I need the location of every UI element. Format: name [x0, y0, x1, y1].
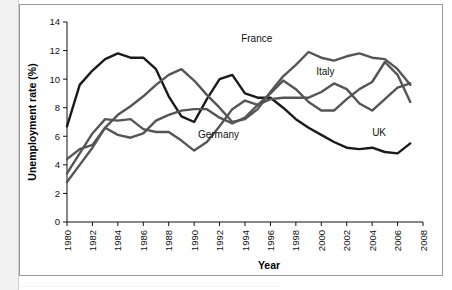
x-tick-marks — [67, 222, 423, 226]
x-tick-labels: 1980198219841986198819901992199419961998… — [62, 230, 429, 251]
y-tick-label: 0 — [55, 216, 60, 227]
x-tick-label: 2004 — [367, 230, 378, 251]
y-tick-label: 10 — [49, 74, 60, 85]
x-tick-label: 2000 — [316, 230, 327, 251]
y-tick-marks — [63, 22, 67, 222]
y-tick-label: 2 — [55, 188, 60, 199]
x-tick-label: 1982 — [87, 230, 98, 251]
series-label-italy: Italy — [316, 66, 334, 77]
caption-fragment-text: …………………………………………………………………………………… — [19, 280, 443, 290]
page-background: 02468101214 1980198219841986198819901992… — [0, 0, 452, 290]
series-label-france: France — [241, 33, 273, 44]
series-paths-group — [67, 52, 410, 182]
y-tick-label: 6 — [55, 131, 60, 142]
x-axis-title: Year — [258, 259, 280, 271]
y-tick-label: 12 — [49, 45, 60, 56]
y-tick-labels: 02468101214 — [49, 16, 60, 227]
x-tick-label: 1994 — [240, 230, 251, 251]
x-tick-label: 1990 — [189, 230, 200, 251]
x-tick-label: 1980 — [62, 230, 73, 251]
page-gutter-strip — [0, 0, 19, 290]
x-tick-label: 1986 — [138, 230, 149, 251]
y-tick-label: 8 — [55, 102, 60, 113]
unemployment-rate-line-chart: 02468101214 1980198219841986198819901992… — [19, 4, 443, 276]
x-tick-label: 2002 — [341, 230, 352, 251]
series-line-france — [67, 52, 410, 182]
y-axis-title: Unemployment rate (%) — [26, 63, 38, 180]
x-tick-label: 1996 — [265, 230, 276, 251]
series-label-uk: UK — [372, 127, 386, 138]
y-tick-label: 14 — [49, 16, 60, 27]
x-tick-label: 2006 — [392, 230, 403, 251]
x-tick-label: 1998 — [290, 230, 301, 251]
x-tick-label: 1988 — [163, 230, 174, 251]
series-line-germany — [67, 62, 410, 173]
y-tick-label: 4 — [55, 159, 60, 170]
series-label-germany: Germany — [198, 129, 239, 140]
x-tick-label: 2008 — [418, 230, 429, 251]
x-tick-label: 1992 — [214, 230, 225, 251]
x-tick-label: 1984 — [112, 230, 123, 251]
